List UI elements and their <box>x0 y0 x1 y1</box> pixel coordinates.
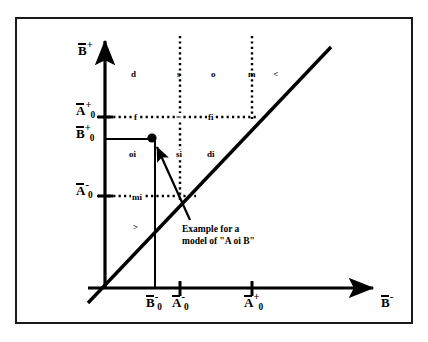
x-axis-label: B- <box>381 296 393 310</box>
relation-label-si: si <box>175 150 183 159</box>
y-axis-label: B+ <box>78 44 93 58</box>
relation-label-before: < <box>273 70 278 79</box>
relation-label-after: > <box>133 223 138 232</box>
relation-label-f: f <box>133 113 138 122</box>
figure-frame-border <box>15 17 413 324</box>
relation-label-mi: mi <box>131 193 143 202</box>
relation-label-di: di <box>207 150 215 159</box>
relation-label-d: d <box>131 70 136 79</box>
x-tick-label-A0minus: A-0 <box>172 296 190 310</box>
y-tick-label-A0plus: A+0 <box>76 104 96 118</box>
caption-line-2: model of "A oi B" <box>182 236 255 248</box>
x-tick-label-B0minus: B-0 <box>146 296 163 310</box>
caption-block: Example for a model of "A oi B" <box>182 224 255 248</box>
x-tick-label-A0plus: A+0 <box>244 296 264 310</box>
y-tick-label-A0minus: A-0 <box>76 184 94 198</box>
relation-label-equals: = <box>175 113 182 122</box>
relation-label-oi: oi <box>129 150 136 159</box>
relation-label-s: s <box>177 70 181 79</box>
diagram-canvas: B+ A+0 B+0 A-0 B-0 A-0 A+0 B- <box>0 0 428 342</box>
relation-label-m: m <box>248 70 256 79</box>
y-tick-label-B0plus: B+0 <box>76 127 95 141</box>
caption-line-1: Example for a <box>182 224 255 236</box>
relation-label-fi: fi <box>207 113 215 122</box>
relation-label-o: o <box>211 70 216 79</box>
